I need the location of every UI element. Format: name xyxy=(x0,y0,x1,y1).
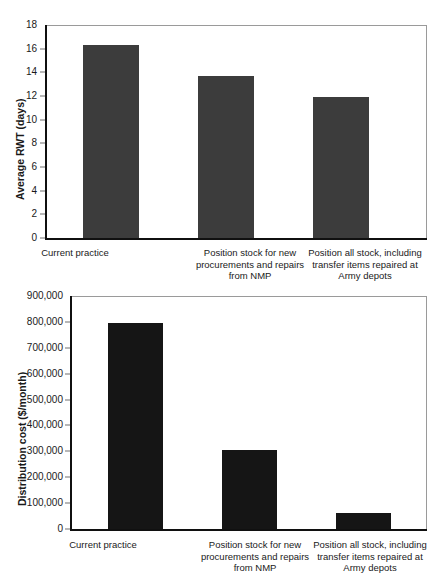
y-axis-tick-label: 900,000 xyxy=(27,291,63,301)
x-axis-category-label-line: transfer items repaired at xyxy=(300,259,430,271)
y-axis-tick xyxy=(65,347,70,348)
bar xyxy=(108,323,163,529)
bar xyxy=(198,76,254,238)
plot-frame-right xyxy=(426,25,427,240)
y-axis-tick xyxy=(65,321,70,322)
x-axis-category-label: Current practice xyxy=(38,539,168,551)
y-axis-tick xyxy=(40,167,45,168)
x-axis-category-label-line: Position stock for new xyxy=(185,247,315,259)
y-axis-tick-label: 500,000 xyxy=(27,395,63,405)
y-axis-tick-label: 8 xyxy=(31,138,37,148)
y-axis-tick xyxy=(65,373,70,374)
x-axis-line xyxy=(70,529,427,531)
y-axis-tick-label: 0 xyxy=(31,233,37,243)
y-axis-tick-label: 200,000 xyxy=(27,472,63,482)
x-axis-category-label: Position stock for newprocurements and r… xyxy=(185,247,315,282)
x-axis-category-label: Position stock for newprocurements and r… xyxy=(190,539,320,574)
x-axis-line xyxy=(45,238,427,240)
y-axis-tick xyxy=(65,425,70,426)
y-axis-tick xyxy=(65,529,70,530)
x-axis-category-label-line: Current practice xyxy=(38,539,168,551)
y-axis-tick-label: 300,000 xyxy=(27,446,63,456)
x-axis-category-label-line: procurements and repairs xyxy=(190,551,320,563)
y-axis-tick xyxy=(65,451,70,452)
y-axis-tick xyxy=(40,190,45,191)
y-axis-line xyxy=(70,296,72,531)
x-axis-category-label-line: from NMP xyxy=(185,270,315,282)
x-axis-category-label-line: Position all stock, including xyxy=(305,539,435,551)
x-axis-category-label: Position all stock, includingtransfer it… xyxy=(305,539,435,574)
x-axis-category-label-line: Current practice xyxy=(10,247,140,259)
plot-area-average-rwt: 181614121086420 xyxy=(45,25,427,240)
y-axis-tick-label: 16 xyxy=(26,44,37,54)
y-axis-title-distribution-cost: Distribution cost ($/month) xyxy=(16,372,28,506)
y-axis-tick-label: 14 xyxy=(26,67,37,77)
y-axis-tick xyxy=(40,238,45,239)
x-axis-category-label-line: procurements and repairs xyxy=(185,259,315,271)
x-axis-category-label: Position all stock, includingtransfer it… xyxy=(300,247,430,282)
x-axis-category-label-line: Army depots xyxy=(300,270,430,282)
y-axis-tick-label: 12 xyxy=(26,91,37,101)
y-axis-tick-label: 0 xyxy=(57,524,63,534)
bar xyxy=(313,97,369,238)
y-axis-tick-label: 100,000 xyxy=(27,498,63,508)
y-axis-tick-label: 700,000 xyxy=(27,343,63,353)
y-axis-tick-label: 4 xyxy=(31,186,37,196)
x-axis-category-label-line: from NMP xyxy=(190,562,320,574)
x-axis-category-label-line: Army depots xyxy=(305,562,435,574)
x-axis-category-label: Current practice xyxy=(10,247,140,259)
y-axis-tick-label: 18 xyxy=(26,20,37,30)
y-axis-tick-label: 400,000 xyxy=(27,420,63,430)
y-axis-tick xyxy=(65,399,70,400)
x-axis-category-label-line: transfer items repaired at xyxy=(305,551,435,563)
y-axis-tick xyxy=(40,214,45,215)
plot-frame-top xyxy=(45,25,427,26)
y-axis-line xyxy=(45,25,47,240)
bar xyxy=(222,450,277,529)
y-axis-tick-label: 10 xyxy=(26,115,37,125)
y-axis-tick xyxy=(40,72,45,73)
x-axis-category-label-line: Position stock for new xyxy=(190,539,320,551)
y-axis-tick-label: 2 xyxy=(31,209,37,219)
y-axis-title-average-rwt: Average RWT (days) xyxy=(14,98,26,200)
y-axis-tick xyxy=(40,96,45,97)
y-axis-tick-label: 600,000 xyxy=(27,369,63,379)
y-axis-tick xyxy=(40,143,45,144)
chart-distribution-cost: Distribution cost ($/month) 900,000800,0… xyxy=(0,291,438,582)
bar xyxy=(83,45,139,238)
y-axis-tick-label: 6 xyxy=(31,162,37,172)
plot-frame-top xyxy=(70,296,427,297)
y-axis-tick xyxy=(40,119,45,120)
y-axis-tick xyxy=(65,503,70,504)
chart-average-rwt: Average RWT (days) 181614121086420 Curre… xyxy=(0,0,438,291)
y-axis-tick xyxy=(65,477,70,478)
x-axis-category-label-line: Position all stock, including xyxy=(300,247,430,259)
bar xyxy=(336,513,391,529)
y-axis-tick xyxy=(40,48,45,49)
plot-frame-right xyxy=(426,296,427,531)
plot-area-distribution-cost: 900,000800,000700,000600,000500,000400,0… xyxy=(70,296,427,531)
y-axis-tick-label: 800,000 xyxy=(27,317,63,327)
